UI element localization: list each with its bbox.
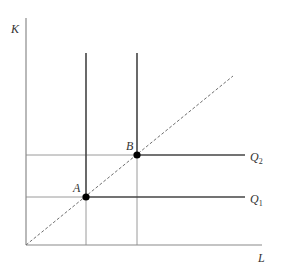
isoquant-diagram: K L A B Q2 Q1 xyxy=(0,0,289,274)
isoquant-q1-label: Q1 xyxy=(250,192,263,208)
isoquant-q2-label: Q2 xyxy=(250,150,263,166)
point-b-label: B xyxy=(126,139,134,153)
y-axis-label: K xyxy=(10,22,20,36)
point-b-marker xyxy=(133,151,140,158)
x-axis-label: L xyxy=(257,251,265,265)
point-a-label: A xyxy=(72,181,81,195)
expansion-path-dashed-line xyxy=(26,76,233,245)
point-a-marker xyxy=(82,193,89,200)
